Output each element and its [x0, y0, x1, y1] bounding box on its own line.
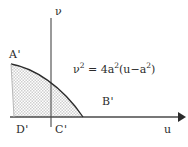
u-axis-label: u: [164, 124, 171, 135]
math-figure: A' B' C' D' ν u ν2 = 4a2(u−a2): [0, 0, 188, 147]
point-label-c-prime: C': [55, 124, 67, 135]
equation-lhs-var: ν: [73, 63, 80, 76]
equation-coefficient: 4a: [101, 63, 115, 76]
point-label-a-prime: A': [9, 49, 21, 60]
point-label-b-prime: B': [102, 96, 114, 107]
point-label-d-prime: D': [16, 124, 29, 135]
equation-equals: =: [88, 63, 97, 76]
equation-inner-var: u−a: [123, 63, 146, 76]
equation-lhs-exponent: 2: [80, 61, 85, 70]
v-axis-label: ν: [55, 6, 62, 17]
equation-annotation: ν2 = 4a2(u−a2): [73, 64, 155, 75]
equation-close-paren: ): [151, 63, 155, 76]
u-axis-arrowhead: [178, 112, 186, 122]
